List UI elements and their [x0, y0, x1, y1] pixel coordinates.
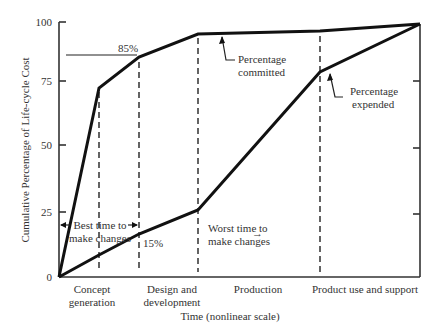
- y-tick-label-100: 100: [36, 16, 53, 28]
- label-85-percent: 85%: [118, 42, 138, 54]
- phase-product-use: Product use and support: [312, 283, 418, 295]
- expended-label-line2: expended: [352, 98, 395, 110]
- best-time-line2: make changes: [69, 232, 131, 244]
- best-time-line1: Best time to: [73, 219, 127, 231]
- phase-production: Production: [234, 283, 283, 295]
- y-tick-label-75: 75: [41, 75, 53, 87]
- best-left-arrowhead-icon: [60, 222, 66, 228]
- best-right-arrowhead-icon: [132, 222, 138, 228]
- y-tick-label-0: 0: [47, 271, 53, 283]
- y-tick-label-25: 25: [41, 206, 53, 218]
- lifecycle-cost-chart: 100 75 50 25 0 Cumulative Percentage of …: [0, 0, 443, 336]
- y-axis-label: Cumulative Percentage of Life-cycle Cost: [19, 57, 31, 242]
- phase-design-line1: Design and: [147, 283, 197, 295]
- committed-label-line2: committed: [238, 66, 286, 78]
- committed-pointer: [222, 37, 235, 60]
- expended-pointer: [330, 74, 343, 97]
- phase-concept-line2: generation: [69, 296, 116, 308]
- x-axis-label: Time (nonlinear scale): [180, 310, 280, 323]
- phase-concept-line1: Concept: [74, 283, 111, 295]
- committed-arrowhead-icon: [219, 36, 225, 44]
- label-15-percent: 15%: [143, 237, 163, 249]
- expended-arrowhead-icon: [327, 73, 333, 81]
- phase-design-line2: development: [144, 296, 201, 308]
- worst-time-arrow-icon: →: [252, 227, 263, 239]
- committed-label-line1: Percentage: [238, 53, 286, 65]
- expended-label-line1: Percentage: [350, 85, 398, 97]
- y-tick-label-50: 50: [41, 139, 53, 151]
